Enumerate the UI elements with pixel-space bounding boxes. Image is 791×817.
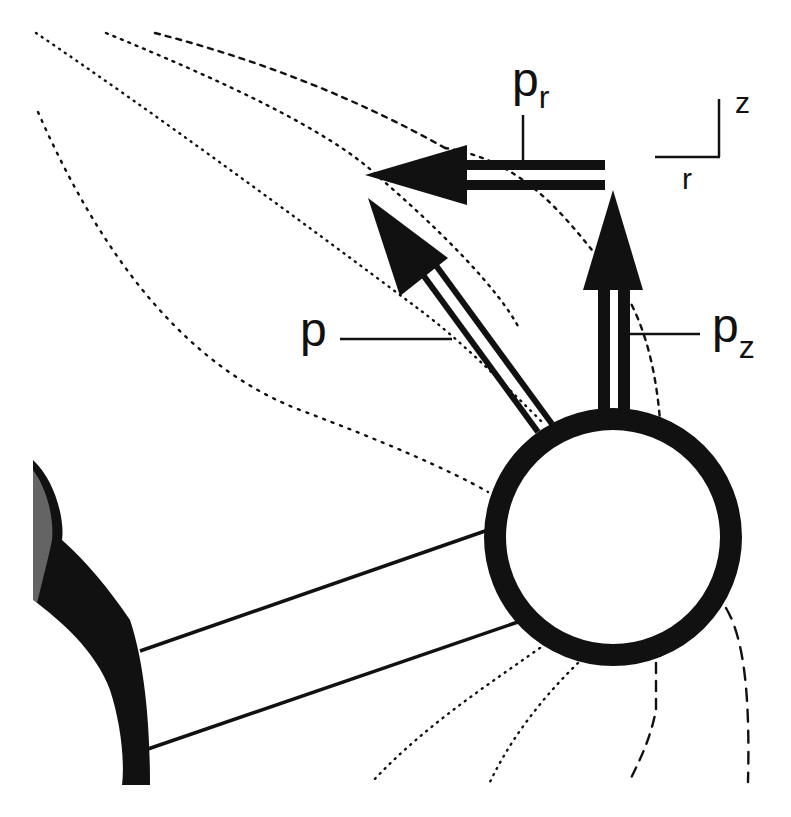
axis-label-z: z — [735, 88, 750, 118]
left-body — [33, 460, 150, 785]
rod — [140, 530, 518, 750]
label-p: p — [300, 306, 327, 354]
flow-line — [490, 663, 578, 782]
axis-label-r: r — [682, 164, 692, 194]
flow-line — [36, 33, 545, 425]
flow-line — [106, 33, 380, 178]
flow-line — [155, 33, 445, 148]
flow-line — [726, 608, 748, 782]
flow-line — [629, 663, 656, 782]
p-vector-arrow — [368, 198, 552, 432]
label-p-r: pr — [512, 56, 549, 104]
p-r-vector-arrow — [365, 145, 605, 205]
diagram-canvas — [0, 0, 791, 817]
flow-line — [372, 648, 540, 782]
label-p-z: pz — [712, 302, 755, 350]
p-z-vector-arrow — [583, 190, 643, 414]
axis-legend — [655, 99, 720, 157]
sphere — [495, 419, 731, 655]
